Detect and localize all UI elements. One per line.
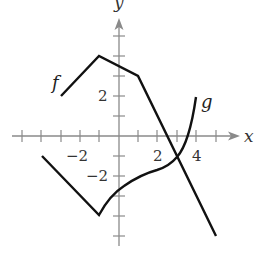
y-tick-label-2: 2	[98, 87, 108, 105]
y-tick-label-neg2: −2	[86, 167, 108, 185]
x-tick-label-2: 2	[153, 147, 163, 165]
f-label: f	[50, 72, 62, 93]
graph-canvas: x y −2 2 4 2 −2 f g	[0, 0, 264, 261]
x-axis-label: x	[244, 126, 254, 146]
f-curve	[61, 56, 216, 236]
y-axis-label: y	[113, 0, 124, 12]
x-tick-label-neg2: −2	[66, 147, 88, 165]
x-axis: x	[12, 126, 254, 146]
x-tick-label-4: 4	[192, 147, 202, 165]
y-axis: y	[113, 0, 125, 246]
g-label: g	[201, 91, 213, 112]
